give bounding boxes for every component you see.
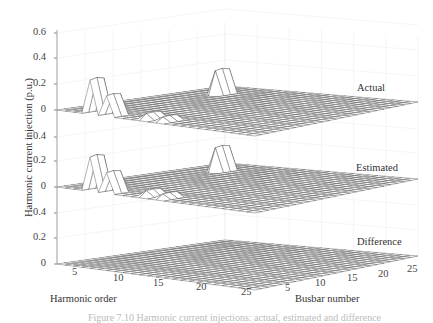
surface-difference <box>57 240 418 290</box>
harmonic-tick-label: 15 <box>153 278 164 289</box>
harmonic-tick-label: 25 <box>241 287 252 298</box>
figure-caption: Figure 7.10 Harmonic current injections:… <box>88 312 381 323</box>
busbar-tick-label: 15 <box>347 273 358 284</box>
harmonic-axis-title: Harmonic order <box>50 293 117 304</box>
busbar-tick-label: 10 <box>315 278 326 289</box>
layer-label-difference: Difference <box>357 236 402 247</box>
layer-label-actual: Actual <box>357 82 385 93</box>
z-tick-label: 0 <box>16 258 46 269</box>
harmonic-tick-label: 10 <box>113 273 124 284</box>
busbar-tick-label: 5 <box>285 283 290 294</box>
busbar-axis-title: Busbar number <box>295 293 359 304</box>
busbar-tick-label: 25 <box>407 264 418 275</box>
z-tick-label: 0.6 <box>16 27 46 38</box>
surface-actual <box>57 68 418 136</box>
busbar-tick-label: 20 <box>378 269 389 280</box>
z-axis-title: Harmonic current injection (p.u.) <box>23 58 34 238</box>
harmonic-tick-label: 5 <box>72 267 77 278</box>
surface-estimated <box>57 145 418 213</box>
harmonic-tick-label: 20 <box>196 282 207 293</box>
layer-label-estimated: Estimated <box>356 162 398 173</box>
